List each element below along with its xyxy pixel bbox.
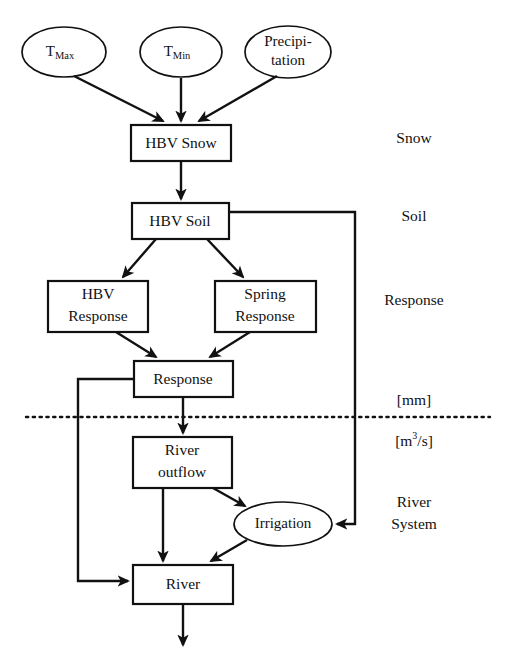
node-hbv-snow-label: HBV Snow bbox=[145, 134, 217, 151]
node-hbv-soil[interactable]: HBV Soil bbox=[132, 203, 229, 239]
arrow-spring-response-to-response bbox=[210, 332, 250, 357]
node-river-outflow[interactable]: River outflow bbox=[133, 437, 232, 488]
node-tmin-label: T bbox=[164, 43, 173, 59]
arrow-hbv-soil-to-hbv-response bbox=[123, 239, 156, 277]
arrow-hbv-soil-to-irrigation bbox=[229, 212, 355, 524]
node-irrigation[interactable]: Irrigation bbox=[234, 502, 332, 546]
node-hbv-snow[interactable]: HBV Snow bbox=[131, 125, 231, 161]
arrow-irrigation-to-river bbox=[211, 540, 247, 561]
node-tmax[interactable]: TMax bbox=[22, 27, 106, 77]
node-hbv-response-line2: Response bbox=[68, 307, 128, 324]
node-precipitation[interactable]: Precipi- tation bbox=[245, 26, 331, 78]
node-river-label: River bbox=[166, 575, 201, 592]
node-river-outflow-line2: outflow bbox=[158, 463, 207, 480]
side-label-response: Response bbox=[384, 291, 444, 308]
node-river[interactable]: River bbox=[133, 565, 233, 604]
node-precipitation-line1: Precipi- bbox=[264, 33, 311, 49]
node-spring-response-line2: Response bbox=[235, 307, 295, 324]
arrow-tmax-to-hbv-snow bbox=[74, 76, 163, 121]
arrow-precipitation-to-hbv-snow bbox=[199, 76, 277, 121]
node-tmin[interactable]: TMin bbox=[140, 27, 222, 77]
node-spring-response-line1: Spring bbox=[244, 285, 286, 302]
arrow-response-to-river bbox=[78, 379, 134, 581]
node-tmax-label: T bbox=[46, 43, 55, 59]
arrow-hbv-soil-to-spring-response bbox=[207, 239, 243, 277]
node-hbv-response[interactable]: HBV Response bbox=[48, 281, 148, 332]
side-label-snow: Snow bbox=[396, 129, 432, 146]
node-tmax-subscript: Max bbox=[55, 50, 75, 61]
node-hbv-soil-label: HBV Soil bbox=[149, 212, 210, 229]
node-tmin-subscript: Min bbox=[173, 50, 191, 61]
node-river-outflow-line1: River bbox=[165, 441, 200, 458]
arrow-hbv-response-to-response bbox=[116, 332, 156, 357]
node-spring-response[interactable]: Spring Response bbox=[215, 281, 316, 332]
arrow-river-outflow-to-irrigation bbox=[213, 488, 245, 506]
node-response[interactable]: Response bbox=[134, 361, 233, 397]
diagram-canvas: TMax TMin Precipi- tation HBV Snow bbox=[0, 0, 508, 662]
unit-m3s-prefix: [m bbox=[395, 432, 412, 449]
side-label-river-system-line1: River bbox=[397, 493, 432, 510]
unit-m3s-suffix: /s] bbox=[417, 432, 433, 449]
flowchart-svg: TMax TMin Precipi- tation HBV Snow bbox=[0, 0, 508, 662]
side-label-unit-mm: [mm] bbox=[397, 391, 431, 408]
node-hbv-response-line1: HBV bbox=[82, 285, 116, 302]
node-response-label: Response bbox=[153, 370, 213, 387]
side-label-river-system-line2: System bbox=[391, 515, 437, 532]
node-precipitation-line2: tation bbox=[271, 52, 306, 68]
side-label-soil: Soil bbox=[402, 207, 427, 224]
side-label-unit-m3s: [m3/s] bbox=[395, 430, 433, 448]
node-irrigation-label: Irrigation bbox=[255, 515, 312, 531]
